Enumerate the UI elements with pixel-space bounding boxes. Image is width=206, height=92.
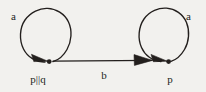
self-loop-label-left: a (11, 11, 16, 22)
state-group-right (139, 8, 189, 64)
self-loop-label-right: a (186, 11, 191, 22)
state-label-right: p (150, 74, 190, 85)
state-dot-left (47, 59, 52, 64)
self-loop-arc-left (20, 8, 71, 62)
transition-arrowhead-b (134, 55, 153, 66)
self-loop-arrowhead-right (151, 54, 167, 61)
self-loop-arc-right (139, 8, 189, 61)
self-loop-arrowhead-left (32, 54, 48, 61)
transition-group-b (53, 55, 153, 66)
state-label-left: p||q (18, 74, 58, 85)
lts-diagram-figure: p ============ --> a a p||q p b (0, 0, 206, 92)
state-dot-right (166, 59, 171, 64)
transition-label-b: b (94, 70, 114, 81)
state-group-left (20, 8, 71, 64)
